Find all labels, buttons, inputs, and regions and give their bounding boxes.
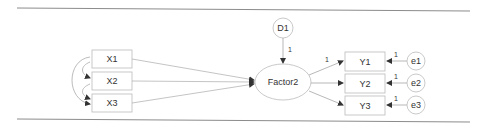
e3-path-label: 1 bbox=[394, 95, 398, 102]
e1-path-label: 1 bbox=[394, 51, 398, 58]
node-e3: e3 bbox=[407, 96, 425, 114]
node-e2: e2 bbox=[407, 74, 425, 92]
d1-label: D1 bbox=[277, 23, 289, 33]
node-x3: X3 bbox=[92, 94, 132, 112]
e2-path-label: 1 bbox=[394, 73, 398, 80]
x2-label: X2 bbox=[106, 76, 117, 86]
e3-label: e3 bbox=[411, 100, 421, 110]
path-diagram: X1 X2 X3 D1 1 Factor2 1 Y1 Y2 bbox=[0, 0, 485, 129]
loading-paths bbox=[309, 61, 343, 105]
y3-label: Y3 bbox=[359, 101, 370, 111]
node-y1: Y1 bbox=[345, 52, 385, 71]
y2-label: Y2 bbox=[359, 79, 370, 89]
node-d1: D1 bbox=[273, 18, 293, 38]
regression-paths bbox=[132, 59, 254, 103]
d1-path-label: 1 bbox=[288, 46, 292, 53]
node-y2: Y2 bbox=[345, 74, 385, 93]
e2-label: e2 bbox=[411, 78, 421, 88]
x3-label: X3 bbox=[106, 98, 117, 108]
node-factor2: Factor2 bbox=[255, 64, 311, 100]
y1-label: Y1 bbox=[359, 57, 370, 67]
x1-label: X1 bbox=[106, 54, 117, 64]
node-x2: X2 bbox=[92, 72, 132, 90]
e1-label: e1 bbox=[411, 56, 421, 66]
bottom-rule bbox=[17, 119, 470, 122]
covariance-arcs bbox=[72, 57, 90, 104]
node-e1: e1 bbox=[407, 52, 425, 70]
top-rule bbox=[17, 8, 470, 11]
node-x1: X1 bbox=[92, 50, 132, 68]
y1-loading-label: 1 bbox=[325, 56, 329, 63]
node-y3: Y3 bbox=[345, 96, 385, 115]
factor2-label: Factor2 bbox=[268, 77, 299, 87]
